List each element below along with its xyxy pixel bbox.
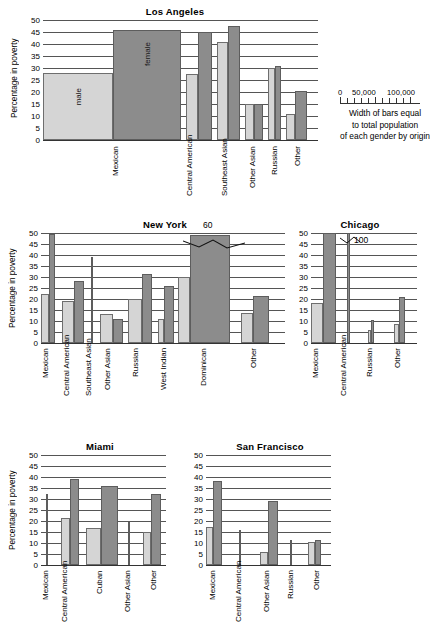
- chart-title-los-angeles: Los Angeles: [60, 6, 290, 17]
- gridline: [43, 20, 318, 21]
- gridline: [41, 277, 285, 278]
- x-category-text: Mexican: [42, 348, 51, 396]
- bar-male: [143, 532, 151, 565]
- scale-caption: Width of bars equal to total population …: [330, 108, 440, 143]
- y-tick: 10: [22, 113, 40, 121]
- x-category-label: Other Asian: [263, 570, 272, 622]
- scale-tick: [375, 97, 376, 104]
- scale-baseline: [340, 103, 420, 104]
- scale-tick: [389, 98, 390, 104]
- scale-caption-line: Width of bars equal: [330, 108, 440, 120]
- y-tick: 5: [290, 329, 308, 337]
- y-tick: 20: [22, 89, 40, 97]
- y-tick: 0: [22, 137, 40, 145]
- bar-male: [128, 299, 142, 343]
- x-category-label: Mexican: [209, 570, 218, 622]
- gridline: [206, 499, 331, 500]
- bar-male: [268, 68, 275, 140]
- y-tick: 50: [20, 230, 38, 238]
- bar-female: [371, 320, 374, 343]
- x-category-label: Other: [250, 348, 259, 396]
- bar-male: [206, 527, 213, 566]
- bar-female: [49, 234, 55, 343]
- y-tick: 15: [20, 529, 38, 537]
- scale-tick: [340, 97, 341, 104]
- x-category-label: Central American: [340, 348, 349, 396]
- y-tick: 40: [20, 252, 38, 260]
- bar-female: [347, 233, 350, 343]
- x-category-label: Mexican: [312, 348, 321, 396]
- scale-tick: [361, 98, 362, 104]
- bar-male: [241, 313, 253, 343]
- gridline: [41, 266, 285, 267]
- bar-male: [178, 277, 190, 343]
- y-tick: 20: [185, 518, 203, 526]
- x-category-label: Southeast Asian: [221, 146, 230, 196]
- chart-title-miami: Miami: [55, 441, 145, 452]
- y-tick: 25: [22, 77, 40, 85]
- bar-female: [323, 233, 336, 343]
- bar-male: [86, 528, 101, 565]
- y-tick: 35: [290, 263, 308, 271]
- x-category-label: Russian: [287, 570, 296, 622]
- bar-female: [268, 501, 278, 565]
- x-category-text: Southeast Asian: [85, 348, 94, 396]
- x-category-label: Russian: [132, 348, 141, 396]
- scale-number: 50,000: [352, 88, 376, 97]
- bar-female: [164, 286, 174, 343]
- bar-female: [46, 494, 48, 566]
- bar-female: [113, 319, 123, 343]
- x-category-text: Central American: [61, 570, 70, 622]
- y-tick: 45: [185, 463, 203, 471]
- x-category-text: Russian: [271, 146, 280, 196]
- y-tick: 40: [20, 474, 38, 482]
- x-category-text: Mexican: [112, 146, 121, 196]
- x-category-label: Russian: [366, 348, 375, 396]
- x-category-label: Other Asian: [104, 348, 113, 396]
- gridline: [41, 455, 166, 456]
- value-annotation: 60: [203, 220, 212, 230]
- x-category-text: Other Asian: [263, 570, 272, 622]
- x-category-label: Dominican: [200, 348, 209, 396]
- x-category-text: Mexican: [312, 348, 321, 396]
- y-tick: 50: [185, 452, 203, 460]
- x-category-label: Other: [313, 570, 322, 622]
- bar-female: [101, 486, 118, 565]
- bar-female: [198, 32, 212, 140]
- bar-female: [295, 91, 307, 140]
- scale-caption-line: to total population: [330, 120, 440, 132]
- gridline: [206, 466, 331, 467]
- x-category-label: Central American: [235, 570, 244, 622]
- x-category-text: Mexican: [209, 570, 218, 622]
- y-tick: 20: [20, 296, 38, 304]
- y-tick: 40: [185, 474, 203, 482]
- bar-female: [253, 296, 269, 343]
- scale-tick: [354, 98, 355, 104]
- chart-new-york: New York Percentage in poverty 50 45 40 …: [0, 215, 290, 400]
- y-tick: 30: [20, 274, 38, 282]
- bar-female: [399, 297, 405, 343]
- bar-female: [91, 257, 93, 343]
- bar-female: [70, 479, 79, 565]
- x-category-text: Central American: [63, 348, 72, 396]
- y-tick: 40: [22, 41, 40, 49]
- bar-male: [217, 42, 228, 140]
- y-axis-label-los-angeles: Percentage in poverty: [10, 18, 22, 138]
- y-tick: 5: [185, 551, 203, 559]
- y-tick: 45: [22, 29, 40, 37]
- x-category-text: Mexican: [42, 570, 51, 622]
- bar-female: [190, 235, 230, 343]
- scale-number: 0: [338, 88, 342, 97]
- y-tick: 25: [290, 285, 308, 293]
- x-category-label: Other: [294, 146, 303, 196]
- y-tick: 30: [185, 496, 203, 504]
- x-category-text: Russian: [287, 570, 296, 622]
- x-category-text: Other: [294, 146, 303, 196]
- gridline: [43, 140, 318, 141]
- chart-chicago: Chicago 50 45 40 35 30 25 20 15 10 5 0 1…: [290, 215, 440, 400]
- x-category-label: Cuban: [96, 570, 105, 622]
- x-category-label: Southeast Asian: [85, 348, 94, 396]
- y-tick: 0: [20, 340, 38, 348]
- chart-miami: Miami Percentage in poverty 50 45 40 35 …: [0, 425, 185, 644]
- bar-female: [228, 26, 240, 140]
